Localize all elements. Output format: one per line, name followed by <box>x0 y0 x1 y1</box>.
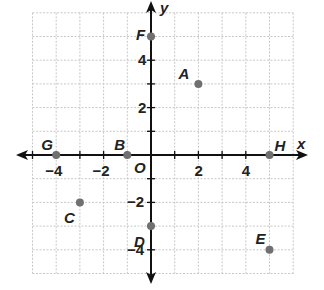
point-f <box>147 33 155 41</box>
x-tick-label: −2 <box>93 163 110 178</box>
point-label-h: H <box>275 138 286 153</box>
grid-lines <box>33 13 294 274</box>
y-tick-label: 2 <box>138 100 146 115</box>
point-label-d: D <box>134 234 145 249</box>
point-d <box>147 222 155 230</box>
x-axis-label: x <box>297 136 305 151</box>
y-axis-label: y <box>160 0 168 15</box>
point-a <box>194 80 202 88</box>
point-label-a: A <box>178 66 189 81</box>
y-tick-label: −2 <box>127 194 144 209</box>
point-g <box>52 151 60 159</box>
x-tick-label: −4 <box>45 163 62 178</box>
point-label-e: E <box>256 231 266 246</box>
point-label-f: F <box>136 27 145 42</box>
origin-label: O <box>134 160 146 175</box>
x-tick-label: 4 <box>242 163 250 178</box>
point-label-b: B <box>114 137 125 152</box>
point-label-g: G <box>41 137 53 152</box>
point-e <box>266 246 274 254</box>
point-label-c: C <box>64 210 75 225</box>
x-tick-label: 2 <box>194 163 202 178</box>
data-points <box>52 33 273 254</box>
y-tick-label: 4 <box>138 52 146 67</box>
point-c <box>76 198 84 206</box>
point-h <box>266 151 274 159</box>
